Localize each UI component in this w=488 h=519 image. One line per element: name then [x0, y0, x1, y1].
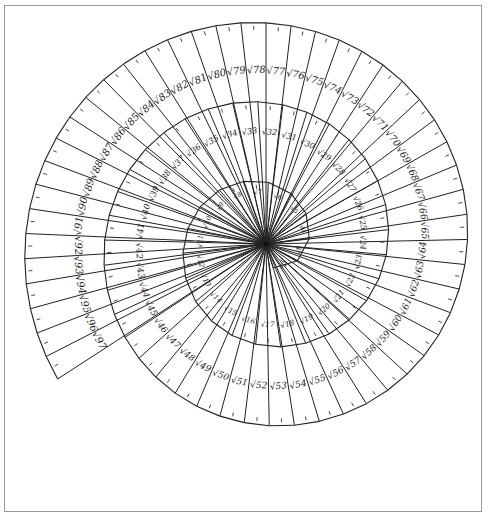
unit-tick-mark	[157, 143, 160, 146]
unit-edge	[186, 278, 196, 301]
unit-edge	[56, 117, 70, 138]
spoke-line	[266, 244, 294, 425]
root-label: √74	[322, 79, 343, 96]
unit-edge	[258, 102, 283, 105]
unit-edge	[450, 289, 459, 313]
unit-edge	[70, 97, 86, 117]
root-label: √75	[304, 72, 325, 88]
unit-tick-mark	[97, 91, 100, 94]
spoke-line	[26, 244, 266, 284]
root-label: √14	[208, 289, 224, 305]
root-label: √88	[87, 159, 105, 181]
unit-tick-mark	[126, 182, 130, 184]
root-label: √3	[295, 245, 304, 255]
unit-edge	[362, 51, 383, 65]
unit-tick-mark	[209, 405, 210, 409]
unit-edge	[175, 393, 197, 406]
root-label: √54	[288, 378, 307, 392]
unit-tick-mark	[80, 109, 83, 111]
unit-tick-mark	[366, 171, 369, 173]
root-label: √32	[262, 127, 278, 137]
unit-edge	[463, 189, 467, 214]
unit-edge	[383, 65, 402, 81]
unit-edge	[139, 358, 156, 377]
unit-edge	[107, 290, 114, 314]
unit-edge	[244, 423, 269, 426]
unit-tick-mark	[136, 60, 138, 63]
unit-tick-mark	[366, 287, 370, 289]
unit-tick-mark	[53, 151, 57, 153]
unit-tick-mark	[134, 344, 137, 346]
unit-tick-mark	[36, 197, 40, 198]
root-label: √67	[411, 181, 428, 203]
root-label: √78	[246, 64, 265, 76]
unit-tick-mark	[221, 109, 222, 113]
unit-edge	[424, 335, 439, 356]
unit-edge	[125, 337, 139, 358]
root-label: √50	[211, 367, 231, 382]
root-label: √79	[226, 64, 246, 78]
unit-edge	[197, 406, 220, 416]
root-label: √20	[316, 301, 333, 317]
unit-tick-mark	[158, 48, 160, 52]
unit-edge	[457, 165, 464, 189]
unit-edge	[26, 209, 30, 234]
unit-tick-mark	[149, 363, 152, 366]
unit-edge	[349, 140, 365, 159]
unit-tick-mark	[37, 319, 41, 320]
root-label: √93	[72, 255, 85, 275]
unit-tick-mark	[55, 364, 58, 366]
unit-edge	[291, 26, 316, 32]
unit-tick-mark	[122, 322, 125, 324]
unit-edge	[191, 26, 216, 32]
unit-tick-mark	[229, 27, 230, 31]
unit-edge	[30, 309, 37, 333]
unit-tick-mark	[193, 286, 196, 288]
root-label: √27	[342, 176, 358, 193]
unit-edge	[407, 356, 424, 375]
unit-edge	[281, 343, 306, 347]
unit-tick-mark	[458, 202, 462, 203]
unit-edge	[386, 230, 388, 255]
root-label: √24	[358, 235, 367, 250]
square-root-spiral: √2√3√4√5√6√7√8√9√10√11√12√13√14√15√16√17…	[0, 0, 488, 519]
unit-edge	[25, 259, 27, 284]
unit-tick-mark	[375, 194, 379, 196]
root-label: √31	[281, 130, 298, 142]
unit-tick-mark	[376, 265, 380, 266]
unit-edge	[145, 40, 168, 51]
root-label: √66	[416, 201, 431, 221]
unit-edge	[402, 81, 419, 99]
unit-edge	[167, 31, 191, 39]
unit-tick-mark	[187, 393, 189, 397]
root-label: √7	[253, 188, 263, 197]
unit-edge	[366, 390, 387, 403]
root-label: √29	[315, 147, 333, 163]
spoke-line	[156, 244, 266, 377]
unit-tick-mark	[198, 117, 200, 121]
unit-edge	[350, 301, 367, 320]
unit-edge	[316, 31, 340, 40]
unit-edge	[145, 133, 164, 150]
root-label: √35	[202, 133, 221, 149]
spoke-line	[266, 244, 319, 421]
unit-tick-mark	[246, 105, 247, 109]
root-label: √63	[412, 260, 426, 279]
unit-tick-mark	[455, 276, 459, 277]
unit-edge	[379, 255, 386, 279]
root-label: √76	[285, 67, 305, 81]
unit-edge	[216, 23, 241, 26]
unit-edge	[196, 301, 212, 321]
unit-edge	[123, 51, 144, 64]
root-label: √49	[193, 358, 213, 375]
unit-edge	[447, 142, 457, 165]
root-label: √16	[241, 314, 257, 326]
root-label: √97	[90, 329, 109, 352]
root-label: √81	[187, 71, 209, 88]
unit-edge	[86, 80, 104, 98]
root-label: √80	[206, 66, 227, 82]
unit-tick-mark	[388, 76, 390, 79]
unit-tick-mark	[373, 391, 375, 394]
unit-tick-mark	[348, 48, 350, 52]
unit-edge	[104, 265, 107, 290]
